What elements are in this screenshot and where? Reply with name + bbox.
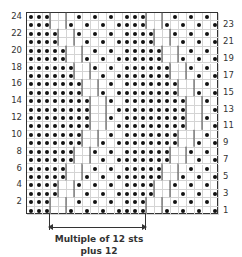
- row-number-label: 6: [6, 163, 22, 173]
- row-number-label: 11: [223, 120, 239, 130]
- repeat-marker-left: [49, 214, 50, 230]
- row-number-label: 20: [6, 45, 22, 55]
- row-number-label: 24: [6, 11, 22, 21]
- row-number-label: 4: [6, 179, 22, 189]
- repeat-arrow-icon: [49, 227, 146, 228]
- caption-line-2: plus 12: [30, 245, 168, 257]
- row-number-label: 9: [223, 137, 239, 147]
- row-number-label: 18: [6, 62, 22, 72]
- row-number-label: 15: [223, 87, 239, 97]
- row-number-label: 12: [6, 112, 22, 122]
- row-number-label: 19: [223, 53, 239, 63]
- row-number-label: 10: [6, 129, 22, 139]
- row-number-label: 8: [6, 146, 22, 156]
- row-number-label: 23: [223, 19, 239, 29]
- cable-lines: [26, 12, 218, 214]
- row-number-label: 22: [6, 28, 22, 38]
- row-number-label: 2: [6, 196, 22, 206]
- row-number-label: 21: [223, 36, 239, 46]
- repeat-marker-right: [145, 214, 146, 230]
- row-number-label: 3: [223, 188, 239, 198]
- row-number-label: 1: [223, 205, 239, 215]
- row-number-label: 5: [223, 171, 239, 181]
- row-number-label: 16: [6, 78, 22, 88]
- row-number-label: 17: [223, 70, 239, 80]
- repeat-caption: Multiple of 12 sts plus 12: [30, 233, 168, 257]
- row-number-label: 13: [223, 104, 239, 114]
- caption-line-1: Multiple of 12 sts: [30, 233, 168, 245]
- row-number-label: 14: [6, 95, 22, 105]
- row-number-label: 7: [223, 154, 239, 164]
